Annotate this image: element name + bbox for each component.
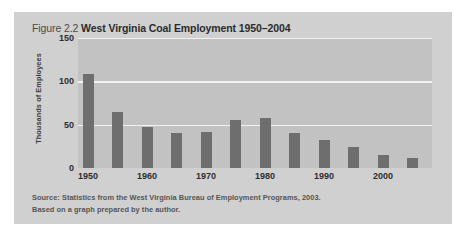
bar bbox=[171, 133, 182, 168]
chart-region: Thousands of Employees 050100150 1950196… bbox=[14, 38, 452, 188]
bar bbox=[112, 112, 123, 168]
x-axis-tick-label: 1990 bbox=[304, 171, 344, 181]
y-axis-tick-label: 100 bbox=[44, 77, 74, 86]
bar bbox=[407, 158, 418, 168]
source-line-1: Source: Statistics from the West Virgini… bbox=[32, 192, 432, 204]
x-axis-tick-label: 1980 bbox=[245, 171, 285, 181]
source-note: Source: Statistics from the West Virgini… bbox=[32, 192, 432, 215]
bar bbox=[289, 133, 300, 168]
bar bbox=[201, 132, 212, 168]
x-axis-tick-labels: 195019601970198019902000 bbox=[78, 171, 432, 185]
plot-area bbox=[78, 38, 432, 168]
source-line-2: Based on a graph prepared by the author. bbox=[32, 204, 432, 216]
y-axis-tick-label: 50 bbox=[44, 120, 74, 129]
bar-series bbox=[78, 38, 432, 168]
y-axis-tick-label: 150 bbox=[44, 34, 74, 43]
y-axis-tick-labels: 050100150 bbox=[44, 38, 74, 168]
bar bbox=[230, 120, 241, 168]
bar bbox=[142, 127, 153, 168]
bar bbox=[348, 147, 359, 168]
x-axis-tick-label: 1960 bbox=[127, 171, 167, 181]
bar bbox=[319, 140, 330, 168]
x-axis-tick-label: 1950 bbox=[68, 171, 108, 181]
x-axis-tick-label: 2000 bbox=[363, 171, 403, 181]
figure-panel: Figure 2.2 West Virginia Coal Employment… bbox=[14, 12, 452, 224]
bar bbox=[83, 74, 94, 168]
page-title: West Virginia Coal Employment 1950–2004 bbox=[81, 22, 290, 34]
bar bbox=[260, 118, 271, 168]
y-axis-title: Thousands of Employees bbox=[34, 49, 43, 149]
x-axis-tick-label: 1970 bbox=[186, 171, 226, 181]
bar bbox=[378, 155, 389, 168]
